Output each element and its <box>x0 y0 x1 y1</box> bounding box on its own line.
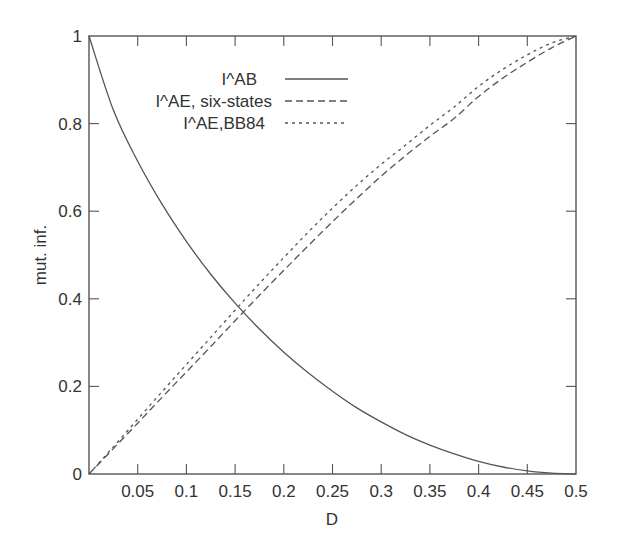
y-axis-label: mut. inf. <box>31 225 50 285</box>
y-tick-label: 0.4 <box>58 290 82 309</box>
x-tick-label: 0.3 <box>369 482 393 501</box>
mutual-information-chart: 0.050.10.150.20.250.30.350.40.450.5 00.2… <box>0 0 618 549</box>
chart-background <box>0 0 618 549</box>
legend-label-i-ab: I^AB <box>222 70 257 89</box>
y-tick-label: 0.2 <box>58 377 82 396</box>
legend-label-i-ae-bb84: I^AE,BB84 <box>183 114 265 133</box>
y-tick-label: 1 <box>73 27 82 46</box>
x-tick-label: 0.4 <box>467 482 491 501</box>
y-tick-label: 0.8 <box>58 115 82 134</box>
x-tick-label: 0.1 <box>175 482 199 501</box>
y-tick-label: 0.6 <box>58 202 82 221</box>
x-tick-label: 0.5 <box>564 482 588 501</box>
x-axis-label: D <box>326 510 338 529</box>
x-tick-label: 0.2 <box>272 482 296 501</box>
legend-label-i-ae-six-states: I^AE, six-states <box>155 92 272 111</box>
x-tick-label: 0.35 <box>413 482 446 501</box>
x-tick-label: 0.45 <box>511 482 544 501</box>
x-tick-label: 0.05 <box>121 482 154 501</box>
x-tick-label: 0.15 <box>219 482 252 501</box>
x-tick-label: 0.25 <box>316 482 349 501</box>
y-tick-label: 0 <box>73 465 82 484</box>
